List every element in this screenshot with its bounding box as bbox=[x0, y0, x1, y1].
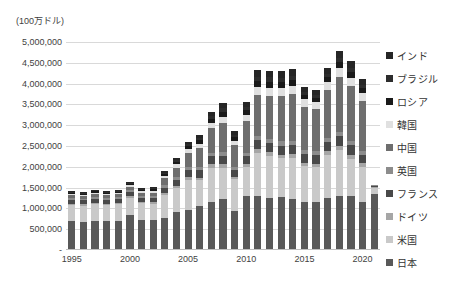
bar-segment-中国 bbox=[196, 148, 203, 167]
bar-segment-中国 bbox=[359, 101, 366, 151]
legend-label: 日本 bbox=[397, 255, 418, 270]
bar-2003[interactable] bbox=[161, 171, 168, 250]
bar-segment-日本 bbox=[68, 221, 75, 250]
chart-legend: インドブラジルロシア韓国中国英国フランスドイツ米国日本 bbox=[386, 44, 455, 274]
legend-item-日本[interactable]: 日本 bbox=[386, 251, 455, 274]
bar-segment-日本 bbox=[138, 220, 145, 250]
bar-2011[interactable] bbox=[254, 70, 261, 250]
bar-segment-中国 bbox=[324, 90, 331, 137]
bar-segment-中国 bbox=[208, 128, 215, 153]
legend-label: 韓国 bbox=[397, 117, 418, 132]
bar-segment-米国 bbox=[138, 203, 145, 220]
y-axis-tick-label: 2,000,000 bbox=[22, 162, 62, 172]
bar-1998[interactable] bbox=[103, 191, 110, 250]
x-axis: 199520002005201020152020 bbox=[66, 252, 380, 272]
bar-segment-中国 bbox=[254, 95, 261, 136]
bar-segment-中国 bbox=[185, 153, 192, 167]
legend-label: ドイツ bbox=[397, 209, 428, 224]
y-axis-tick-label: 4,000,000 bbox=[22, 79, 62, 89]
bar-segment-日本 bbox=[278, 197, 285, 250]
bar-segment-フランス bbox=[254, 140, 261, 149]
legend-swatch-icon bbox=[386, 259, 393, 266]
bar-segment-中国 bbox=[243, 121, 250, 153]
bar-2009[interactable] bbox=[231, 131, 238, 250]
legend-swatch-icon bbox=[386, 121, 393, 128]
bar-2000[interactable] bbox=[126, 182, 133, 250]
bar-segment-日本 bbox=[243, 196, 250, 250]
bar-segment-フランス bbox=[266, 143, 273, 152]
bar-2006[interactable] bbox=[196, 135, 203, 250]
bar-2015[interactable] bbox=[301, 87, 308, 250]
bar-1996[interactable] bbox=[80, 192, 87, 250]
legend-item-インド[interactable]: インド bbox=[386, 44, 455, 67]
legend-label: 英国 bbox=[397, 163, 418, 178]
bar-segment-韓国 bbox=[289, 86, 296, 94]
bar-segment-中国 bbox=[278, 96, 285, 141]
legend-item-米国[interactable]: 米国 bbox=[386, 228, 455, 251]
bar-2019[interactable] bbox=[347, 61, 354, 250]
bar-segment-韓国 bbox=[359, 93, 366, 101]
x-axis-tick-label: 2000 bbox=[120, 254, 140, 264]
bar-segment-韓国 bbox=[278, 88, 285, 96]
bar-segment-米国 bbox=[185, 180, 192, 211]
legend-item-ブラジル[interactable]: ブラジル bbox=[386, 67, 455, 90]
bar-segment-中国 bbox=[289, 94, 296, 141]
axis-baseline bbox=[66, 249, 380, 250]
legend-item-韓国[interactable]: 韓国 bbox=[386, 113, 455, 136]
bar-2012[interactable] bbox=[266, 71, 273, 250]
bar-segment-日本 bbox=[324, 198, 331, 250]
x-axis-tick-label: 2020 bbox=[353, 254, 373, 264]
bar-1997[interactable] bbox=[91, 190, 98, 250]
bar-2021[interactable] bbox=[371, 185, 378, 250]
legend-item-ロシア[interactable]: ロシア bbox=[386, 90, 455, 113]
bar-2004[interactable] bbox=[173, 158, 180, 250]
bar-2008[interactable] bbox=[219, 103, 226, 250]
bar-segment-米国 bbox=[161, 195, 168, 218]
bar-segment-韓国 bbox=[301, 99, 308, 106]
legend-swatch-icon bbox=[386, 213, 393, 220]
bar-segment-インド bbox=[336, 51, 343, 58]
bar-2020[interactable] bbox=[359, 79, 366, 250]
bar-segment-日本 bbox=[150, 220, 157, 250]
legend-item-英国[interactable]: 英国 bbox=[386, 159, 455, 182]
bar-2017[interactable] bbox=[324, 68, 331, 250]
y-axis-tick-label: 3,500,000 bbox=[22, 99, 62, 109]
bar-2018[interactable] bbox=[336, 51, 343, 250]
y-axis-tick-label: 1,000,000 bbox=[22, 203, 62, 213]
legend-label: ロシア bbox=[397, 94, 428, 109]
bar-2002[interactable] bbox=[150, 187, 157, 250]
x-axis-tick-label: 1995 bbox=[62, 254, 82, 264]
bar-1995[interactable] bbox=[68, 191, 75, 250]
bar-segment-日本 bbox=[347, 196, 354, 250]
bar-2001[interactable] bbox=[138, 188, 145, 250]
bar-segment-米国 bbox=[254, 153, 261, 195]
bar-segment-米国 bbox=[219, 168, 226, 200]
bar-2014[interactable] bbox=[289, 69, 296, 250]
bar-segment-日本 bbox=[301, 202, 308, 250]
x-axis-tick-label: 2010 bbox=[236, 254, 256, 264]
legend-item-フランス[interactable]: フランス bbox=[386, 182, 455, 205]
bar-segment-米国 bbox=[289, 158, 296, 199]
legend-item-ドイツ[interactable]: ドイツ bbox=[386, 205, 455, 228]
bar-segment-中国 bbox=[266, 96, 273, 138]
bar-2010[interactable] bbox=[243, 102, 250, 250]
bar-segment-日本 bbox=[115, 221, 122, 250]
bar-segment-フランス bbox=[359, 155, 366, 163]
legend-swatch-icon bbox=[386, 75, 393, 82]
bar-segment-フランス bbox=[301, 154, 308, 162]
bar-2007[interactable] bbox=[208, 112, 215, 250]
bar-segment-米国 bbox=[173, 188, 180, 212]
bar-segment-中国 bbox=[231, 145, 238, 167]
bar-2016[interactable] bbox=[312, 90, 319, 250]
bar-segment-米国 bbox=[208, 168, 215, 202]
bar-segment-米国 bbox=[231, 179, 238, 211]
bar-segment-米国 bbox=[91, 204, 98, 221]
bar-2005[interactable] bbox=[185, 142, 192, 250]
bar-1999[interactable] bbox=[115, 190, 122, 250]
legend-label: インド bbox=[397, 48, 428, 63]
bar-segment-日本 bbox=[371, 194, 378, 250]
bar-segment-韓国 bbox=[324, 82, 331, 90]
legend-item-中国[interactable]: 中国 bbox=[386, 136, 455, 159]
legend-label: ブラジル bbox=[397, 71, 438, 86]
bar-2013[interactable] bbox=[278, 71, 285, 250]
